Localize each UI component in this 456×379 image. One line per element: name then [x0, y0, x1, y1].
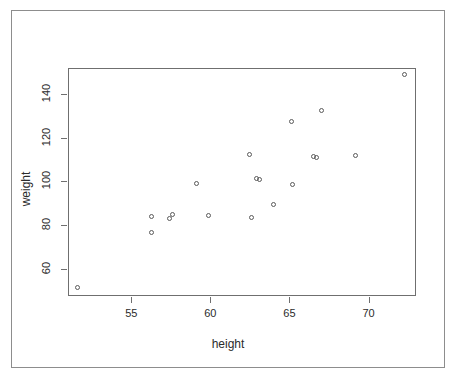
data-point	[149, 214, 154, 219]
data-point	[289, 119, 294, 124]
y-axis-tick-label: 100	[40, 160, 52, 200]
data-point	[319, 108, 324, 113]
data-point	[167, 216, 172, 221]
y-axis-tick-label: 80	[40, 204, 52, 244]
x-axis-tick	[131, 297, 132, 303]
y-axis-label: weight	[19, 159, 33, 219]
x-axis-tick	[289, 297, 290, 303]
data-point	[149, 230, 154, 235]
y-axis-tick	[61, 181, 67, 182]
data-point	[314, 155, 319, 160]
y-axis-tick-label: 60	[40, 248, 52, 288]
x-axis-tick-label: 70	[349, 307, 389, 319]
data-point	[290, 182, 295, 187]
data-point	[170, 212, 175, 217]
y-axis-tick-label: 140	[40, 73, 52, 113]
data-point	[206, 213, 211, 218]
data-point	[402, 72, 407, 77]
x-axis-tick	[369, 297, 370, 303]
x-axis-tick-label: 65	[269, 307, 309, 319]
x-axis-tick	[210, 297, 211, 303]
y-axis-tick	[61, 225, 67, 226]
y-axis-tick	[61, 94, 67, 95]
y-axis-tick	[61, 269, 67, 270]
data-point	[257, 177, 262, 182]
data-point	[75, 285, 80, 290]
data-point	[353, 153, 358, 158]
plot-data-area	[68, 68, 416, 296]
screenshot-root: 556065706080100120140 weight height	[0, 0, 456, 379]
data-point	[271, 202, 276, 207]
x-axis-tick-label: 55	[111, 307, 151, 319]
y-axis-tick	[61, 138, 67, 139]
x-axis-label: height	[0, 337, 456, 351]
y-axis-tick-label: 120	[40, 117, 52, 157]
data-point	[249, 215, 254, 220]
x-axis-tick-label: 60	[190, 307, 230, 319]
data-point	[194, 181, 199, 186]
data-point	[247, 152, 252, 157]
